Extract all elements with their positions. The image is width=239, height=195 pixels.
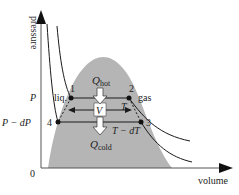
point-3 [139,120,144,125]
pressure-high-label: P [29,92,36,103]
point-1 [69,96,74,101]
pressure-low-label: P − dP [1,117,31,128]
point-4 [56,120,61,125]
point-4-label: 4 [47,117,52,128]
x-axis-arrow-icon [219,163,233,173]
origin-label: 0 [30,168,35,179]
point-2 [127,96,132,101]
diagram-canvas: pressure volume 0 P P − dP 1 2 3 4 liq. … [0,0,239,195]
y-axis-label: pressure [29,16,40,50]
point-3-label: 3 [146,117,151,128]
x-axis-label: volume [198,175,229,186]
gas-label: gas [138,92,151,103]
liquid-label: liq. [54,92,67,103]
point-2-label: 2 [129,83,134,94]
point-1-label: 1 [70,83,75,94]
temperature-cold-label: T − dT [112,125,141,136]
pv-diagram: pressure volume 0 P P − dP 1 2 3 4 liq. … [0,0,239,195]
